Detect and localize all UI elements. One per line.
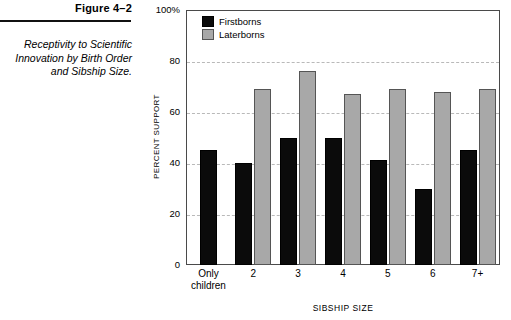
bar-chart: 020406080100% PERCENT SUPPORT Firstborns… (140, 0, 511, 320)
bar-group (455, 10, 500, 265)
bar-firstborns (200, 150, 217, 265)
legend-swatch-icon (202, 29, 214, 40)
figure-number: Figure 4–2 (75, 2, 132, 14)
x-tick-label: 5 (385, 268, 391, 280)
chart-legend: FirstbornsLaterborns (202, 16, 264, 40)
bar-group (231, 10, 276, 265)
legend-swatch-icon (202, 16, 214, 27)
y-tick-label: 40 (169, 158, 180, 168)
caption-divider-rule (0, 20, 131, 22)
y-tick-label: 20 (169, 209, 180, 219)
legend-label: Laterborns (219, 30, 264, 40)
bar-laterborns (479, 89, 496, 265)
y-axis-title: PERCENT SUPPORT (152, 94, 161, 179)
y-tick-label: 0 (175, 260, 180, 270)
y-axis: 020406080100% (140, 0, 184, 275)
x-axis-title: SIBSHIP SIZE (186, 303, 500, 313)
y-tick-label: 100% (156, 5, 180, 15)
bar-group (365, 10, 410, 265)
x-tick-label: 3 (295, 268, 301, 280)
bar-laterborns (254, 89, 271, 265)
bar-firstborns (280, 138, 297, 266)
bar-firstborns (370, 160, 387, 265)
y-tick-label: 80 (169, 56, 180, 66)
legend-label: Firstborns (219, 17, 261, 27)
bar-laterborns (389, 89, 406, 265)
bar-firstborns (325, 138, 342, 266)
figure-caption-block: Figure 4–2 Receptivity to Scientific Inn… (0, 0, 140, 320)
y-tick-label: 60 (169, 107, 180, 117)
bar-laterborns (434, 92, 451, 265)
x-axis: Onlychildren234567+ (186, 268, 500, 302)
bar-firstborns (460, 150, 477, 265)
bar-group (276, 10, 321, 265)
x-tick-label: 4 (340, 268, 346, 280)
x-tick-label: 6 (430, 268, 436, 280)
legend-item: Firstborns (202, 16, 264, 27)
bar-group (410, 10, 455, 265)
bar-group (321, 10, 366, 265)
bar-group (186, 10, 231, 265)
bar-laterborns (344, 94, 361, 265)
bars-layer (186, 10, 500, 265)
bar-firstborns (235, 163, 252, 265)
x-tick-label: Onlychildren (191, 268, 226, 292)
bar-firstborns (415, 189, 432, 266)
figure-caption-text: Receptivity to Scientific Innovation by … (8, 38, 132, 79)
x-tick-label: 2 (251, 268, 257, 280)
legend-item: Laterborns (202, 29, 264, 40)
bar-laterborns (299, 71, 316, 265)
x-tick-label: 7+ (472, 268, 483, 280)
